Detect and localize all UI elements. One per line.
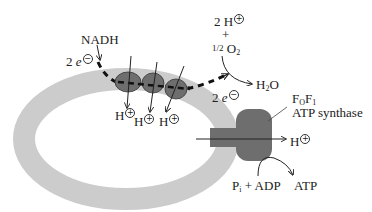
nadh-arrow <box>97 45 100 60</box>
pumped-proton-1: H+ <box>115 108 135 122</box>
oxygen-fraction: 1/2 <box>212 43 224 53</box>
complex-iv <box>165 79 187 99</box>
plus-charge-icon: + <box>169 114 179 124</box>
synthase-proton-label: H+ <box>290 134 310 148</box>
atp-label: ATP <box>294 179 317 192</box>
electrons-out-label: 2 e− <box>212 90 239 104</box>
water-suffix: O <box>269 77 278 92</box>
synthase-leader-line <box>268 107 287 121</box>
oxygen-label: 1/2 O2 <box>212 42 240 59</box>
reactant-plus-sign: + <box>222 28 229 41</box>
plus-charge-icon: + <box>144 114 154 124</box>
electrons-out-coef: 2 <box>212 90 219 105</box>
plus-charge-icon: + <box>234 14 244 24</box>
adp-label: ADP <box>255 178 281 193</box>
electrons-out-symbol: e <box>222 90 228 105</box>
electrons-in-label: 2 e− <box>66 54 93 68</box>
minus-charge-icon: − <box>83 54 93 64</box>
substrate-plus-sign: + <box>245 178 252 193</box>
water-label: H2O <box>256 78 279 95</box>
oxygen-symbol: O <box>227 41 236 56</box>
pumped-proton-3: H+ <box>159 114 179 128</box>
pumped-proton-text: H <box>134 114 143 129</box>
plus-charge-icon: + <box>300 134 310 144</box>
pumped-proton-2: H+ <box>134 114 154 128</box>
synthase-name-line2: ATP synthase <box>292 106 363 119</box>
pumped-proton-text: H <box>115 108 124 123</box>
electrons-in-coef: 2 <box>66 54 73 69</box>
protons-reactant-label: 2 H+ <box>214 14 244 28</box>
nadh-label: NADH <box>81 33 119 46</box>
substrates-label: Pi + ADP <box>232 179 281 196</box>
oxygen-to-water-arrow <box>222 56 252 84</box>
phosphate-subscript: i <box>239 185 241 194</box>
water-symbol: H <box>256 77 265 92</box>
synthase-proton-text: H <box>290 134 299 149</box>
electrons-in-symbol: e <box>76 54 82 69</box>
oxygen-subscript: 2 <box>236 48 240 57</box>
f1-head <box>236 109 272 161</box>
pumped-proton-text: H <box>159 114 168 129</box>
minus-charge-icon: − <box>229 90 239 100</box>
